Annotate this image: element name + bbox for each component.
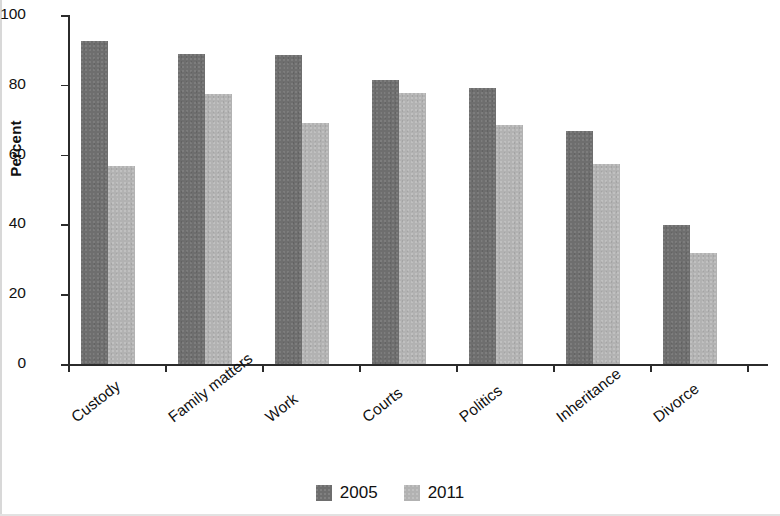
bar-chart: Percent 020406080100 CustodyFamily matte… bbox=[0, 0, 780, 516]
y-axis-tick-label: 40 bbox=[0, 214, 26, 232]
x-axis-label-inheritance: Inheritance bbox=[553, 365, 625, 426]
y-axis-tick bbox=[61, 364, 68, 366]
x-axis-tick bbox=[747, 364, 749, 372]
x-axis-label-politics: Politics bbox=[456, 382, 506, 426]
x-axis-tick bbox=[359, 364, 361, 372]
y-axis-tick bbox=[61, 85, 68, 87]
x-axis-label-custody: Custody bbox=[68, 377, 124, 426]
x-axis-label-divorce: Divorce bbox=[650, 380, 702, 427]
x-axis-label-courts: Courts bbox=[359, 384, 406, 426]
y-axis-tick bbox=[61, 15, 68, 17]
legend-item-2005: 2005 bbox=[316, 483, 378, 503]
y-axis-tick-label: 100 bbox=[0, 5, 26, 23]
x-axis-tick bbox=[553, 364, 555, 372]
legend-label-2011: 2011 bbox=[428, 483, 465, 503]
y-axis-tick bbox=[61, 294, 68, 296]
bar-divorce-2011 bbox=[690, 253, 717, 364]
bar-politics-2011 bbox=[496, 125, 523, 364]
y-axis-tick bbox=[61, 155, 68, 157]
legend-item-2011: 2011 bbox=[404, 483, 465, 503]
y-axis-line bbox=[68, 15, 70, 364]
bar-inheritance-2005 bbox=[566, 131, 593, 364]
bar-inheritance-2011 bbox=[593, 164, 620, 364]
y-axis-tick-label: 0 bbox=[0, 354, 26, 372]
bar-courts-2011 bbox=[399, 93, 426, 364]
x-axis-label-work: Work bbox=[262, 390, 301, 426]
chart-legend: 20052011 bbox=[0, 483, 780, 503]
x-axis-tick bbox=[165, 364, 167, 372]
y-axis-tick-label: 80 bbox=[0, 75, 26, 93]
bar-work-2011 bbox=[302, 123, 329, 365]
bar-divorce-2005 bbox=[663, 225, 690, 364]
bar-family-matters-2005 bbox=[178, 54, 205, 364]
x-axis-tick bbox=[68, 364, 70, 372]
x-axis-tick bbox=[650, 364, 652, 372]
y-axis-tick-label: 60 bbox=[0, 145, 26, 163]
plot-area: 020406080100 bbox=[68, 15, 768, 364]
y-axis-tick-label: 20 bbox=[0, 284, 26, 302]
legend-label-2005: 2005 bbox=[340, 483, 378, 503]
legend-swatch-2011 bbox=[404, 485, 420, 501]
bar-custody-2005 bbox=[81, 41, 108, 364]
x-axis-tick bbox=[262, 364, 264, 372]
bar-family-matters-2011 bbox=[205, 94, 232, 364]
bar-custody-2011 bbox=[108, 166, 135, 364]
legend-swatch-2005 bbox=[316, 485, 332, 501]
bar-politics-2005 bbox=[469, 88, 496, 364]
x-axis-line bbox=[68, 364, 768, 366]
bar-courts-2005 bbox=[372, 80, 399, 364]
x-axis-tick bbox=[456, 364, 458, 372]
y-axis-tick bbox=[61, 224, 68, 226]
bar-work-2005 bbox=[275, 55, 302, 364]
